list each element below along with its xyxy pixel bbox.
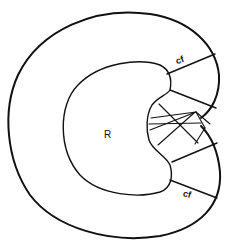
outer-boundary [8,12,220,238]
radial-line-upper-2 [170,90,216,108]
crossing-rays [149,104,210,145]
radial-line-lower-2 [172,143,217,162]
diagram: R cf cf [0,0,233,251]
region-label-r: R [104,130,111,140]
diagram-canvas [0,0,233,251]
radial-line-lower-cf [170,180,217,198]
